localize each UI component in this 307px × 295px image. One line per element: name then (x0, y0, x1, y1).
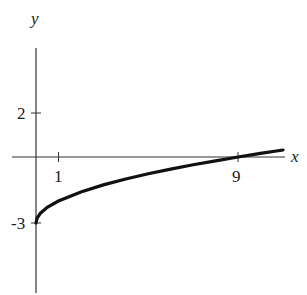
y-axis-label: y (29, 9, 39, 28)
x-axis-label: x (290, 147, 299, 166)
x-tick-label-1: 1 (54, 167, 63, 186)
x-tick-label-9: 9 (232, 167, 241, 186)
function-curve (36, 150, 283, 223)
y-tick-label-neg3: -3 (11, 214, 25, 233)
y-tick-label-2: 2 (17, 104, 26, 123)
chart: y x 1 9 2 -3 (0, 0, 307, 295)
